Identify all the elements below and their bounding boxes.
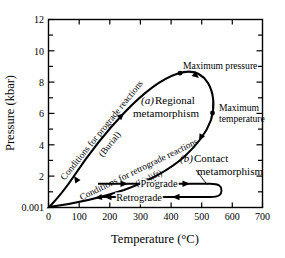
- figure-metamorphic-pt-paths: 12 10 8 6 4 2 0.001 0 100 200 300 400 50…: [0, 0, 285, 258]
- y-tick-0001: 0.001: [22, 202, 45, 213]
- y-tick-4: 4: [39, 140, 44, 151]
- x-tick-200: 200: [102, 211, 117, 222]
- x-tick-0: 0: [46, 211, 51, 222]
- max-temperature-label-line1: Maximum: [219, 102, 260, 113]
- x-tick-labels: 0 100 200 300 400 500 600 700: [46, 211, 270, 222]
- y-tick-12: 12: [34, 14, 44, 25]
- y-tick-8: 8: [39, 77, 44, 88]
- prograde-label: Prograde: [140, 178, 178, 189]
- y-axis-title: Pressure (kbar): [3, 75, 17, 151]
- arrowhead-retrograde-right: [172, 194, 180, 201]
- x-axis-title: Temperature (°C): [111, 232, 199, 246]
- arrowhead-prograde-right: [183, 181, 191, 188]
- regional-tag: (a): [141, 94, 154, 107]
- regional-label-line2: metamorphism: [133, 107, 199, 119]
- contact-label-line1: Contact: [194, 152, 228, 164]
- max-temperature-label-line2: temperature: [219, 113, 265, 124]
- x-tick-700: 700: [255, 211, 270, 222]
- x-tick-600: 600: [225, 211, 240, 222]
- x-tick-400: 400: [164, 211, 179, 222]
- y-tick-10: 10: [34, 46, 44, 57]
- max-temperature-marker: [210, 111, 215, 116]
- max-pressure-label: Maximum pressure: [183, 60, 257, 71]
- chart-canvas: 12 10 8 6 4 2 0.001 0 100 200 300 400 50…: [0, 0, 285, 258]
- max-pressure-marker: [178, 71, 183, 76]
- y-tick-labels: 12 10 8 6 4 2 0.001: [22, 14, 45, 213]
- y-tick-6: 6: [39, 108, 44, 119]
- x-tick-500: 500: [194, 211, 209, 222]
- x-tick-300: 300: [133, 211, 148, 222]
- retrograde-label: Retrograde: [116, 192, 162, 203]
- y-tick-2: 2: [39, 171, 44, 182]
- contact-tag: (b): [180, 152, 193, 165]
- contact-label-line2: metamorphism: [197, 165, 263, 177]
- x-tick-100: 100: [72, 211, 87, 222]
- regional-label-line1: Regional: [155, 94, 195, 106]
